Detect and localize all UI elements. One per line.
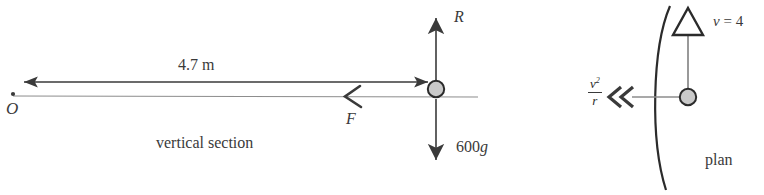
weight-value: 600 xyxy=(456,138,480,155)
fraction-numerator-exponent: 2 xyxy=(596,76,600,85)
fraction-numerator: v2 xyxy=(588,77,602,91)
label-force-reaction: R xyxy=(454,9,464,25)
track-arc xyxy=(655,6,670,190)
label-force-weight: 600g xyxy=(456,139,488,155)
origin-point-o xyxy=(11,92,15,96)
label-centripetal-acceleration: v2 r xyxy=(588,77,602,108)
particle-vertical-section xyxy=(428,81,444,97)
particle-plan xyxy=(680,89,696,105)
label-force-friction: F xyxy=(346,111,356,127)
figure-drawing xyxy=(0,0,764,195)
label-velocity: v = 4 xyxy=(713,14,743,29)
velocity-arrowhead-hollow-triangle xyxy=(673,8,703,35)
weight-unit: g xyxy=(480,138,488,155)
caption-vertical-section: vertical section xyxy=(156,135,253,151)
caption-plan: plan xyxy=(705,152,733,168)
figure-canvas: O 4.7 m F vertical section R 600g v = 4 … xyxy=(0,0,764,195)
ground-line xyxy=(13,96,478,97)
label-distance-4-7m: 4.7 m xyxy=(178,57,214,73)
label-origin-o: O xyxy=(6,100,18,117)
velocity-equals: = xyxy=(720,13,736,29)
velocity-value: 4 xyxy=(736,13,744,29)
acceleration-arrowhead-chevron-inner xyxy=(621,87,633,107)
velocity-symbol: v xyxy=(713,13,720,29)
fraction-denominator: r xyxy=(588,94,602,108)
